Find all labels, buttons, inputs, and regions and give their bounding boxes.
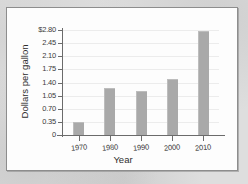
x-tick-label: 1980 — [98, 142, 123, 153]
y-axis-tick-labels: 00.350.701.051.401.752.102.45$2.80 — [7, 8, 56, 172]
x-tick-mark — [110, 136, 111, 141]
y-tick-label: 0.70 — [42, 105, 56, 113]
plot-area — [63, 30, 219, 135]
x-tick-label: 2010 — [191, 142, 216, 153]
y-tick-label: 0.35 — [42, 118, 56, 126]
y-tick-label: 2.10 — [42, 52, 56, 60]
x-axis-title: Year — [7, 154, 239, 165]
bar — [167, 79, 178, 135]
y-tick-label: 0 — [52, 131, 56, 139]
figure-root: 00.350.701.051.401.752.102.45$2.80 19701… — [0, 0, 248, 184]
bar — [136, 91, 147, 135]
y-tick-label: 1.40 — [42, 79, 56, 87]
bar — [198, 31, 209, 135]
x-tick-mark — [203, 136, 204, 141]
chart-panel: 00.350.701.051.401.752.102.45$2.80 19701… — [6, 7, 238, 171]
x-tick-label: 1990 — [129, 142, 154, 153]
x-tick-label: 1970 — [67, 142, 92, 153]
y-tick-label: 1.75 — [42, 65, 56, 73]
x-tick-mark — [79, 136, 80, 141]
bar — [104, 88, 115, 135]
x-tick-mark — [172, 136, 173, 141]
x-tick-mark — [141, 136, 142, 141]
y-tick-label: $2.80 — [38, 26, 56, 34]
y-axis-title: Dollars per gallon — [19, 27, 30, 137]
x-tick-label: 2000 — [160, 142, 185, 153]
y-tick-label: 2.45 — [42, 39, 56, 47]
bar — [73, 122, 84, 135]
y-tick-label: 1.05 — [42, 92, 56, 100]
y-tick-mark — [58, 135, 63, 136]
